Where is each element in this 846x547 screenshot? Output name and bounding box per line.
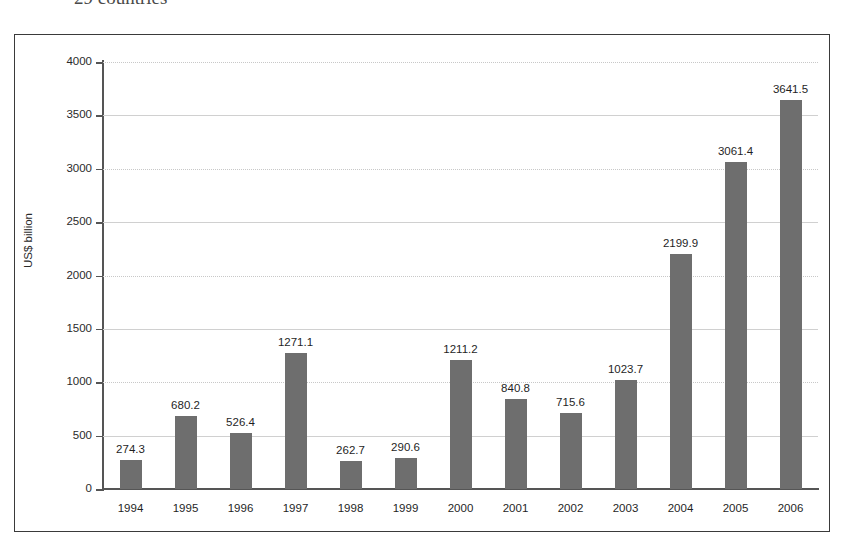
y-axis-tick — [96, 62, 103, 64]
x-axis-tick-label: 2000 — [431, 503, 491, 515]
x-axis-tick-label: 1995 — [156, 503, 216, 515]
y-axis-tick — [96, 436, 103, 438]
x-axis-tick-label: 2004 — [651, 503, 711, 515]
y-axis-tick — [96, 115, 103, 117]
y-axis-tick — [96, 382, 103, 384]
y-axis-tick — [96, 489, 103, 491]
x-axis-tick-label: 1998 — [321, 503, 381, 515]
x-axis-tick-label: 2002 — [541, 503, 601, 515]
x-axis-tick-labels: 1994199519961997199819992000200120022003… — [0, 0, 846, 547]
y-axis-tick — [96, 222, 103, 224]
x-axis-tick-label: 2003 — [596, 503, 656, 515]
y-axis-tick — [96, 329, 103, 331]
y-axis-tick — [96, 276, 103, 278]
y-axis-tick — [96, 169, 103, 171]
x-axis-tick-label: 1996 — [211, 503, 271, 515]
x-axis-tick-label: 1994 — [101, 503, 161, 515]
x-axis-tick-label: 2006 — [761, 503, 821, 515]
x-axis-tick-label: 1999 — [376, 503, 436, 515]
x-axis-tick-label: 2005 — [706, 503, 766, 515]
x-axis-tick-label: 2001 — [486, 503, 546, 515]
x-axis-tick-label: 1997 — [266, 503, 326, 515]
